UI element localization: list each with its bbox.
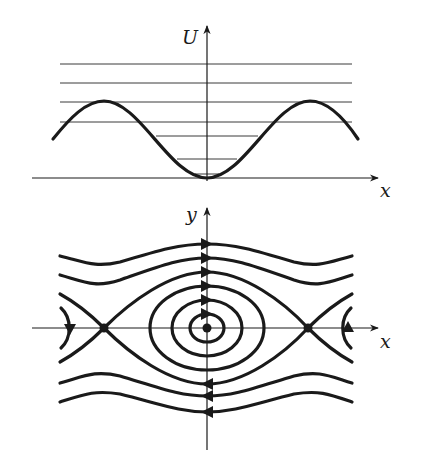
y-axis-label: y bbox=[185, 203, 197, 225]
potential-curve bbox=[53, 101, 358, 178]
x-axis-label-bottom: x bbox=[380, 330, 391, 352]
x-axis-label-top: x bbox=[380, 179, 391, 201]
u-axis-label: U bbox=[182, 26, 199, 48]
energy-levels bbox=[60, 64, 352, 174]
saddle-point-left bbox=[100, 324, 109, 333]
arrow-down-icon bbox=[64, 324, 76, 335]
diagram-canvas: U x bbox=[0, 0, 424, 476]
phase-portrait-panel: y x bbox=[32, 203, 391, 450]
potential-panel: U x bbox=[32, 26, 391, 201]
center-point bbox=[203, 324, 212, 333]
saddle-point-right bbox=[304, 324, 313, 333]
